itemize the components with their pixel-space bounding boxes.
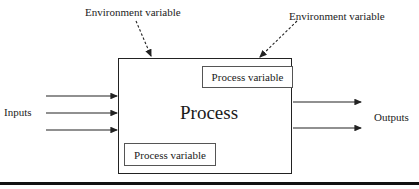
process-box: Process variable Process Process variabl…	[118, 58, 292, 174]
env-variable-label-right: Environment variable	[289, 10, 385, 22]
process-variable-bottom-left: Process variable	[124, 143, 216, 166]
inputs-label: Inputs	[4, 106, 32, 118]
bottom-rule	[0, 182, 419, 185]
env-arrow-left	[136, 21, 151, 56]
process-title: Process	[180, 102, 238, 124]
outputs-label: Outputs	[374, 111, 409, 123]
env-arrow-right	[260, 21, 297, 57]
env-variable-label-left: Environment variable	[85, 6, 181, 18]
process-variable-top-right: Process variable	[202, 66, 293, 88]
